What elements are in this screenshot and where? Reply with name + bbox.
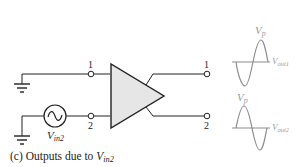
output-2-peak-label: Vp	[237, 92, 248, 105]
output-1-peak-label: Vp	[255, 25, 266, 38]
ac-source-icon	[44, 105, 66, 127]
output-terminal-2	[204, 113, 210, 119]
output-1-wire	[146, 74, 204, 85]
output-1-waveform	[232, 40, 270, 86]
output-terminal-1-label: 1	[204, 60, 209, 70]
output-1-voltage-label: Vout1	[272, 57, 289, 67]
source-label: Vin2	[47, 130, 64, 143]
input-terminal-1-label: 1	[88, 60, 93, 70]
input-terminal-2	[88, 113, 94, 119]
figure-caption: (c) Outputs due to Vin2	[10, 151, 114, 164]
output-terminal-2-label: 2	[204, 121, 209, 131]
output-2-wire	[146, 107, 204, 116]
ground-icon	[14, 136, 30, 144]
input-1-ground-wire	[22, 74, 88, 84]
output-2-voltage-label: Vout2	[272, 123, 289, 133]
input-terminal-1	[88, 71, 94, 77]
output-terminal-1	[204, 71, 210, 77]
ground-icon	[14, 84, 30, 92]
output-2-waveform	[232, 106, 270, 150]
input-terminal-2-label: 2	[88, 121, 93, 131]
